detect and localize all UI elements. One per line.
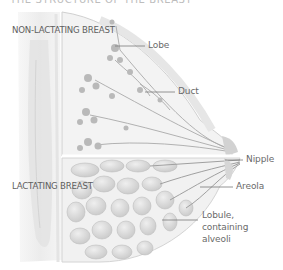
breast-anatomy-diagram: THE STRUCTURE OF THE BREAST NON-LACTATIN… [0,0,283,270]
section-label-non-lactating: NON-LACTATING BREAST [12,25,115,35]
label-areola: Areola [236,181,264,191]
section-label-lactating: LACTATING BREAST [12,181,93,191]
label-duct: Duct [178,86,199,96]
diagram-title: THE STRUCTURE OF THE BREAST [10,0,192,5]
label-lobe: Lobe [148,40,169,50]
chest-wall [18,12,62,262]
label-lobule: Lobule, containing alveoli [202,209,262,245]
label-nipple: Nipple [246,154,274,164]
